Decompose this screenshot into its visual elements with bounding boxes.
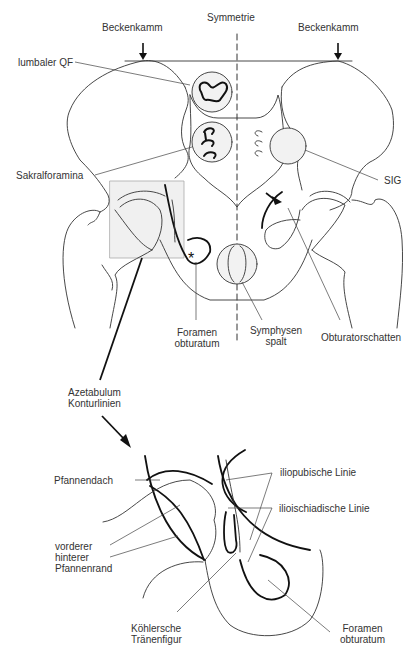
right-femur-neck [312,250,352,328]
leader-obturator-shadow [288,208,340,320]
connector-line [100,258,142,380]
label-pfannenrand: vorderer hinterer Pfannenrand [55,541,112,574]
label-ilioischiadische-linie: ilioischiadische Linie [279,503,370,514]
lower-ilioischial-line [226,460,240,552]
right-acetabulum-inner [302,198,345,250]
label-foramen-obturatum-bottom-l1: Foramen [335,623,390,634]
lower-femur-neck [143,562,203,598]
left-femur-inner [102,265,113,290]
label-azetabulum-l1: Azetabulum [68,387,121,398]
sacral-foramen-right-2 [255,141,262,146]
arrow-obturator-head [272,196,282,205]
leader-lumbar-qf [75,62,190,85]
label-pfannenrand-l1: vorderer [55,541,112,552]
label-symphysenspalt: Symphysen spalt [246,325,306,347]
label-foramen-obturatum-top: Foramen obturatum [172,327,222,349]
label-beckenkamm-right: Beckenkamm [298,22,359,33]
connector-arrow-shaft [102,416,125,440]
label-pfannendach: Pfannendach [54,475,113,486]
left-greater-trochanter [88,212,100,225]
lower-pfannendach [147,471,212,484]
lower-pubic-outline [205,550,323,636]
label-azetabulum-l2: Konturlinien [68,398,121,409]
label-sig: SIG [384,175,401,186]
leader-vorderer-rand [110,505,180,545]
sig-highlight [270,128,306,164]
label-pfannenrand-l3: Pfannenrand [55,563,112,574]
left-femur-outer [63,210,100,328]
label-sakralforamina: Sakralforamina [16,170,83,181]
label-azetabulum: Azetabulum Konturlinien [68,387,121,409]
label-obturatorschatten: Obturatorschatten [321,332,401,343]
right-obturator-foramen [265,210,300,249]
label-symphysenspalt-l1: Symphysen [246,325,306,336]
lower-teardrop-left [224,512,237,553]
lower-posterior-rim [150,486,204,560]
right-acetabulum-roof [310,191,350,202]
label-symphysenspalt-l2: spalt [246,336,306,347]
leader-koehler [177,553,236,612]
label-foramen-obturatum-bottom-l2: obturatum [335,634,390,645]
label-beckenkamm-left: Beckenkamm [102,22,163,33]
label-foramen-obturatum-top-l1: Foramen [172,327,222,338]
leader-iliopubic [226,473,272,540]
label-koehlersche-traenenfigur: Köhlersche Tränenfigur [131,623,182,645]
label-lumbaler-qf: lumbaler QF [18,57,73,68]
label-foramen-obturatum-top-l2: obturatum [172,338,222,349]
leader-foramen-lower [268,580,330,632]
star-marker: * [188,250,194,267]
label-pfannenrand-l2: hinterer [55,552,112,563]
label-koehler-l1: Köhlersche [131,623,182,634]
lower-obturator-foramen [240,555,289,599]
sacral-foramen-right-3 [255,151,262,156]
leader-sig [305,150,378,180]
sacral-foramen-right-1 [255,131,262,136]
label-koehler-l2: Tränenfigur [131,634,182,645]
left-ilium-inner [175,87,188,178]
right-femur-outer [352,199,403,328]
arrow-iliac-left-head [139,53,147,60]
label-foramen-obturatum-bottom: Foramen obturatum [335,623,390,645]
symphysis-highlight [217,244,257,284]
leader-symphysis [242,282,262,320]
label-iliopubische-linie: iliopubische Linie [280,467,356,478]
leader-sacral-foramina [95,147,192,175]
label-symmetrie: Symmetrie [207,12,255,23]
arrow-iliac-right-head [334,53,342,60]
